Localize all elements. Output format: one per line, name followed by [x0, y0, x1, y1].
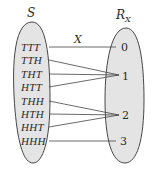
range-value-1: 1	[122, 70, 129, 83]
range-value-0: 0	[121, 41, 128, 54]
outcome-TTH: TTH	[21, 54, 43, 66]
domain-set-label: S	[27, 6, 35, 20]
mapping-label: X	[73, 33, 83, 46]
range-set-label: RX	[115, 8, 131, 24]
outcome-HTH: HTH	[20, 108, 45, 120]
outcome-THT: THT	[21, 68, 43, 80]
outcome-TTT: TTT	[21, 41, 41, 53]
outcome-HHT: HHT	[20, 121, 44, 133]
outcome-HTT: HTT	[20, 81, 43, 93]
range-value-2: 2	[122, 109, 129, 122]
outcome-HHH: HHH	[20, 135, 46, 147]
random-variable-mapping-diagram: S RX X TTT TTH THT HTT THH HTH HHT HHH 0…	[0, 0, 155, 171]
range-value-3: 3	[120, 135, 127, 148]
outcome-THH: THH	[21, 95, 45, 107]
